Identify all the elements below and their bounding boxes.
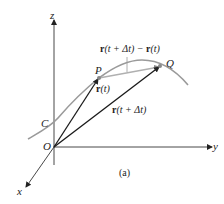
figure-graphics xyxy=(0,0,224,204)
curve-label: C xyxy=(41,118,48,129)
vector-r-t xyxy=(54,79,98,147)
difference-arg2: (t) xyxy=(151,43,160,54)
vector-derivative-figure: z y x O C P Q r(t) r(t + Δt) r(t + Δt) −… xyxy=(0,0,224,204)
point-p xyxy=(97,76,101,80)
point-q-label: Q xyxy=(166,58,174,69)
z-axis-label: z xyxy=(50,10,54,21)
r-t-arg: (t) xyxy=(100,83,109,94)
curve-c xyxy=(28,60,188,139)
r-t-dt-label: r(t + Δt) xyxy=(112,105,146,115)
point-p-label: P xyxy=(95,65,102,76)
r-t-label: r(t) xyxy=(96,84,110,94)
x-axis xyxy=(26,147,54,187)
y-axis-label: y xyxy=(213,141,218,152)
origin-label: O xyxy=(43,141,51,152)
r-t-dt-arg: (t + Δt) xyxy=(116,104,146,115)
figure-caption: (a) xyxy=(119,168,130,178)
difference-label: r(t + Δt) − r(t) xyxy=(100,44,160,54)
difference-arg1: (t + Δt) − xyxy=(104,43,146,54)
point-q xyxy=(158,64,162,68)
x-axis-label: x xyxy=(17,186,22,197)
